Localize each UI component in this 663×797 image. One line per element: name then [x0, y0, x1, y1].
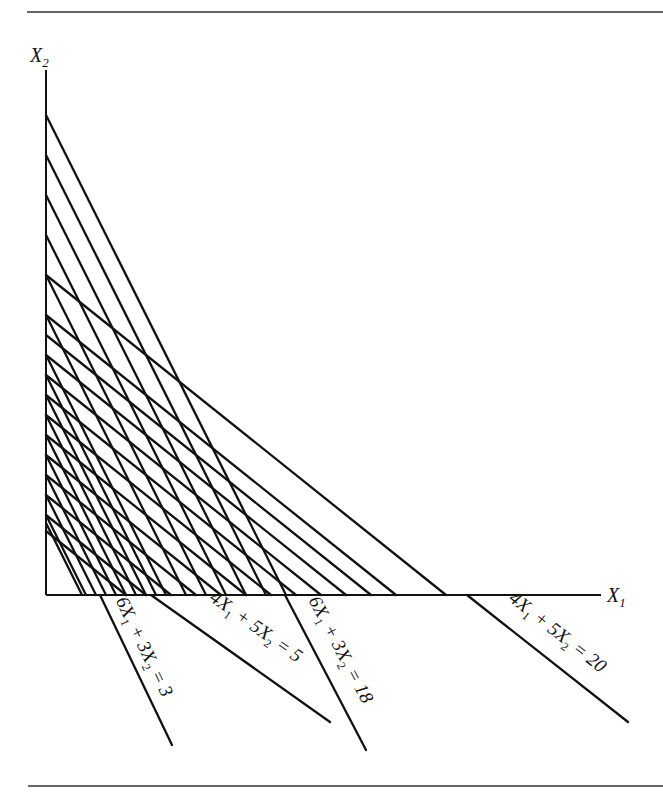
iso-line	[46, 335, 371, 595]
x-axis-label: X1	[606, 584, 626, 610]
iso-lines-group	[46, 115, 446, 595]
iso-line	[46, 355, 346, 595]
iso-line	[46, 531, 126, 595]
linear-programming-diagram: X1 X2 6X1 + 3X2 = 34X1 + 5X2 = 56X1 + 3X…	[0, 0, 663, 797]
y-axis-label: X2	[29, 44, 49, 70]
iso-line	[46, 155, 266, 595]
label-4x1-5x2-5: 4X1 + 5X2 = 5	[204, 586, 307, 669]
iso-line	[46, 475, 196, 595]
iso-line	[46, 515, 86, 595]
line-labels: 6X1 + 3X2 = 34X1 + 5X2 = 56X1 + 3X2 = 18…	[108, 586, 611, 709]
iso-line	[46, 235, 226, 595]
iso-line	[46, 315, 396, 595]
iso-line	[46, 375, 321, 595]
iso-line	[46, 435, 126, 595]
